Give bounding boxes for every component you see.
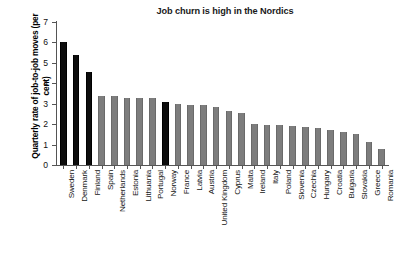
chart-title: Job churn is high in the Nordics xyxy=(60,6,390,16)
x-tick-mark xyxy=(140,166,141,169)
bar xyxy=(111,96,118,165)
bar-slot xyxy=(261,22,274,165)
bar-slot xyxy=(121,22,134,165)
x-tick-mark xyxy=(203,166,204,169)
x-label-slot: Spain xyxy=(95,170,108,254)
x-label-slot: United Kingdom xyxy=(210,170,223,254)
bar-series xyxy=(57,22,388,165)
bar xyxy=(98,96,105,165)
x-tick-mark xyxy=(229,166,230,169)
bar xyxy=(162,102,169,165)
x-tick-mark xyxy=(114,166,115,169)
bar-slot xyxy=(172,22,185,165)
x-label-slot: Cyprus xyxy=(223,170,236,254)
bar-slot xyxy=(273,22,286,165)
x-label-slot: Hungary xyxy=(312,170,325,254)
x-label-slot: France xyxy=(172,170,185,254)
bar-slot xyxy=(159,22,172,165)
chart-container: Job churn is high in the Nordics Quarter… xyxy=(0,0,394,254)
y-tick-label: 5 xyxy=(0,58,54,68)
x-label-slot: Bulgaria xyxy=(337,170,350,254)
bar xyxy=(264,125,271,165)
y-tick-label: 4 xyxy=(0,78,54,88)
x-axis-line xyxy=(56,165,389,166)
x-tick-mark xyxy=(242,166,243,169)
x-tick-mark xyxy=(191,166,192,169)
x-tick-mark xyxy=(280,166,281,169)
bar-slot xyxy=(312,22,325,165)
bar xyxy=(136,98,143,165)
y-tick-mark xyxy=(52,83,56,84)
y-tick-mark xyxy=(52,165,56,166)
bar xyxy=(289,126,296,165)
x-tick-mark xyxy=(76,166,77,169)
bar xyxy=(327,130,334,165)
x-label-slot: Malta xyxy=(235,170,248,254)
bar-slot xyxy=(337,22,350,165)
x-label-slot: Czechia xyxy=(299,170,312,254)
x-tick-mark xyxy=(331,166,332,169)
x-label-slot: Estonia xyxy=(121,170,134,254)
y-tick-mark xyxy=(52,22,56,23)
bar xyxy=(315,128,322,165)
bar-slot xyxy=(146,22,159,165)
bar-slot xyxy=(95,22,108,165)
x-label-slot: Croatia xyxy=(324,170,337,254)
bar xyxy=(187,105,194,165)
bar-slot xyxy=(363,22,376,165)
bar-slot xyxy=(210,22,223,165)
bar-slot xyxy=(299,22,312,165)
x-label-slot: Lithuania xyxy=(133,170,146,254)
bar xyxy=(276,125,283,165)
x-tick-mark xyxy=(293,166,294,169)
y-tick-mark xyxy=(52,63,56,64)
bar-slot xyxy=(350,22,363,165)
y-tick-label: 3 xyxy=(0,99,54,109)
x-label-slot: Norway xyxy=(159,170,172,254)
x-label-slot: Austria xyxy=(197,170,210,254)
y-tick-mark xyxy=(52,145,56,146)
x-tick-mark xyxy=(127,166,128,169)
x-tick-mark xyxy=(254,166,255,169)
x-tick-mark xyxy=(178,166,179,169)
x-label-slot: Ireland xyxy=(248,170,261,254)
bar-slot xyxy=(324,22,337,165)
bar xyxy=(302,127,309,165)
y-tick-mark xyxy=(52,42,56,43)
x-label-slot: Romania xyxy=(375,170,388,254)
x-tick-mark xyxy=(63,166,64,169)
x-label-slot: Sweden xyxy=(57,170,70,254)
bar-slot xyxy=(108,22,121,165)
bar xyxy=(60,42,67,165)
x-tick-mark xyxy=(267,166,268,169)
x-label-slot: Italy xyxy=(261,170,274,254)
x-tick-mark xyxy=(369,166,370,169)
bar-slot xyxy=(375,22,388,165)
y-tick-mark xyxy=(52,104,56,105)
y-tick-label: 1 xyxy=(0,140,54,150)
bar xyxy=(353,134,360,165)
y-tick-label: 2 xyxy=(0,119,54,129)
bar-slot xyxy=(133,22,146,165)
x-tick-mark xyxy=(356,166,357,169)
x-tick-mark xyxy=(382,166,383,169)
bar-slot xyxy=(70,22,83,165)
bar-slot xyxy=(248,22,261,165)
bar xyxy=(200,105,207,165)
x-label-slot: Latvia xyxy=(184,170,197,254)
bar xyxy=(226,111,233,165)
x-label-slot: Poland xyxy=(273,170,286,254)
x-label-slot: Slovenia xyxy=(286,170,299,254)
bar-slot xyxy=(82,22,95,165)
y-tick-label: 6 xyxy=(0,37,54,47)
y-tick-mark xyxy=(52,124,56,125)
bar xyxy=(251,124,258,165)
bar-slot xyxy=(286,22,299,165)
x-label-slot: Denmark xyxy=(70,170,83,254)
x-tick-mark xyxy=(165,166,166,169)
bar xyxy=(238,113,245,165)
x-label-slot: Netherlands xyxy=(108,170,121,254)
bar xyxy=(86,72,93,165)
bar xyxy=(366,142,373,165)
bar-slot xyxy=(223,22,236,165)
